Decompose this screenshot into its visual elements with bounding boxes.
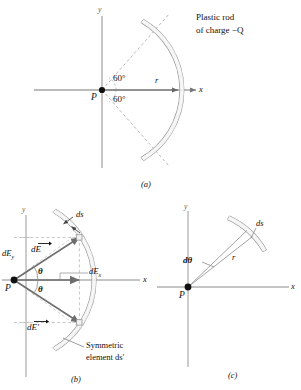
panel-c: y x P dθ r ds (c) bbox=[155, 205, 301, 390]
panel-a-angle-lower-label: 60° bbox=[113, 95, 126, 104]
panel-b-canvas bbox=[0, 205, 155, 390]
panel-b-component-dEy-label: dEy bbox=[2, 249, 14, 260]
panel-c-point-p-marker bbox=[185, 284, 192, 291]
panel-c-y-axis-label: y bbox=[184, 203, 187, 211]
panel-b-symmetric-caption-line1: Symmetric bbox=[86, 341, 123, 350]
panel-a-point-p-marker bbox=[99, 87, 105, 93]
panel-b-vector-dE-prime-label: dE′ bbox=[27, 323, 39, 332]
panel-b-angle-upper-label: θ bbox=[38, 267, 43, 276]
panel-b-dE-arrow-accent bbox=[38, 241, 54, 246]
panel-a-point-p-label: P bbox=[91, 93, 97, 103]
panel-a: y x P r 60° 60° Plastic rod of charge −Q… bbox=[0, 0, 301, 200]
panel-c-wedge-edge-upper bbox=[188, 231, 247, 288]
panel-b-point-p-marker bbox=[11, 277, 18, 284]
panel-b-point-p-label: P bbox=[5, 284, 11, 294]
panel-c-ds-label: ds bbox=[256, 219, 264, 228]
panel-c-radius-label: r bbox=[232, 253, 235, 262]
panel-b-symmetric-caption-line2: element ds′ bbox=[86, 353, 124, 362]
panel-a-caption: (a) bbox=[141, 180, 151, 189]
panel-a-rod-caption-line1: Plastic rod bbox=[196, 13, 234, 22]
panel-b-vector-dE-prime bbox=[14, 280, 79, 323]
panel-a-angle-upper-label: 60° bbox=[113, 74, 126, 83]
panel-b: y x P ds dE dE′ dEx dEy θ θ Symmetric bbox=[0, 205, 155, 390]
panel-a-rod-caption-line2: of charge −Q bbox=[196, 26, 243, 35]
panel-a-x-axis-label: x bbox=[199, 85, 203, 94]
panel-b-vector-dE-label: dE bbox=[31, 245, 41, 254]
panel-b-y-axis-label: y bbox=[22, 206, 25, 214]
panel-a-canvas bbox=[0, 0, 301, 200]
panel-b-component-dEx-label: dEx bbox=[89, 267, 101, 278]
panel-c-dtheta-leader bbox=[202, 262, 214, 267]
panel-c-wedge-edge-lower bbox=[188, 237, 253, 288]
panel-c-x-axis-label: x bbox=[291, 282, 295, 291]
panel-a-y-axis-label: y bbox=[98, 6, 102, 14]
panel-c-dtheta-label: dθ bbox=[183, 256, 192, 265]
panel-b-x-axis-label: x bbox=[143, 275, 147, 284]
panel-b-dEy-subscript: y bbox=[11, 254, 14, 260]
panel-a-radius-label: r bbox=[155, 76, 158, 85]
panel-b-tip-marker-upper bbox=[77, 235, 82, 240]
panel-c-canvas bbox=[155, 205, 301, 390]
panel-c-caption: (c) bbox=[228, 371, 237, 380]
panel-b-dEx-subscript: x bbox=[98, 272, 101, 278]
panel-c-point-p-label: P bbox=[179, 291, 185, 301]
panel-b-caption: (b) bbox=[71, 375, 81, 384]
panel-b-dE-prime-arrow-accent bbox=[34, 319, 52, 324]
panel-b-tip-marker-lower bbox=[77, 320, 82, 325]
panel-b-ds-label: ds bbox=[76, 210, 84, 219]
panel-b-angle-lower-label: θ bbox=[38, 285, 43, 294]
